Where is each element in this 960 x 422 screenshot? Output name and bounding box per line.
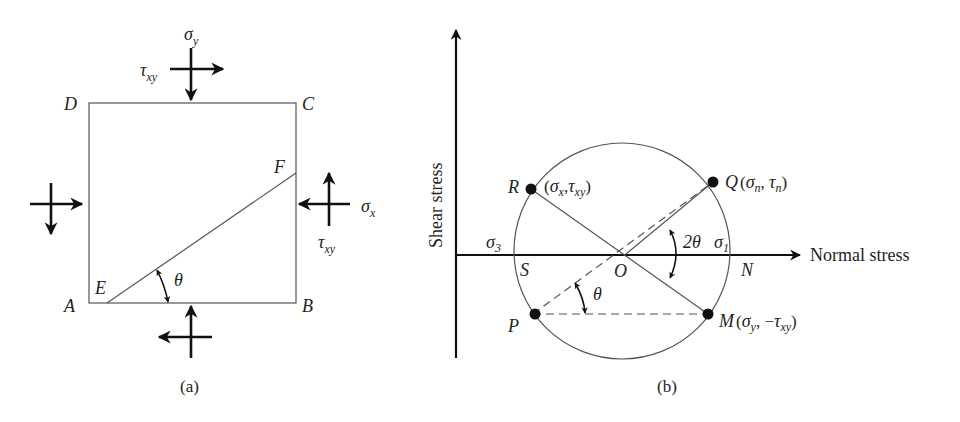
tau-xy-top-label: τxy (140, 60, 158, 84)
element-square (89, 103, 296, 303)
point-o-label: O (614, 261, 627, 281)
sigma-x-label: σx (361, 196, 376, 220)
point-s-label: S (520, 260, 529, 280)
point-p-label: P (507, 316, 519, 336)
point-r-coord: (σx,τxy) (544, 176, 591, 199)
corner-label-b: B (302, 296, 313, 316)
point-q (708, 177, 719, 188)
point-m-coord: (σy, −τxy) (736, 311, 797, 334)
theta-angle-arrow-icon (157, 270, 168, 302)
bottom-stress-arrows-icon (159, 306, 212, 358)
corner-label-d: D (63, 94, 77, 114)
right-stress-arrows-icon (299, 173, 350, 226)
point-m-label: M (718, 311, 735, 331)
caption-b: (b) (657, 377, 677, 396)
point-n-label: N (740, 260, 754, 280)
panel-b: R (σx,τxy) Q (σn, τn) P M (σy, −τxy) S O… (426, 30, 909, 396)
sigma-y-label: σy (184, 24, 199, 48)
point-r (526, 184, 537, 195)
point-p (530, 309, 541, 320)
point-q-coord: (σn, τn) (740, 172, 787, 195)
two-theta-label: 2θ (683, 232, 701, 252)
angle-theta-label: θ (174, 270, 183, 290)
plane-point-f: F (273, 157, 286, 177)
panel-a: D C A B E F θ σy τxy σx τxy (a) (30, 24, 376, 396)
oblique-plane-ef (107, 173, 296, 303)
figure-canvas: D C A B E F θ σy τxy σx τxy (a) R (0, 0, 960, 422)
point-r-label: R (507, 177, 519, 197)
caption-a: (a) (180, 377, 199, 396)
tau-xy-right-label: τxy (318, 232, 336, 256)
point-q-label: Q (725, 172, 738, 192)
corner-label-c: C (302, 94, 315, 114)
sigma-1-label: σ1 (714, 232, 729, 255)
corner-label-a: A (63, 296, 76, 316)
theta-label: θ (593, 284, 602, 304)
plane-point-e: E (94, 278, 106, 298)
left-stress-arrows-icon (30, 183, 82, 234)
top-stress-arrows-icon (170, 48, 223, 100)
shear-stress-axis-label: Shear stress (426, 163, 446, 248)
point-m (703, 309, 714, 320)
theta-angle-arrow-icon (575, 283, 585, 313)
sigma-3-label: σ3 (486, 232, 501, 255)
normal-stress-axis-label: Normal stress (810, 245, 909, 265)
